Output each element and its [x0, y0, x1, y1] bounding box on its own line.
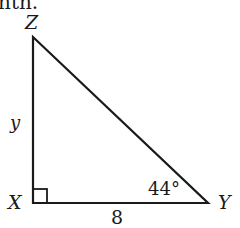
vertex-label-y: Y — [218, 193, 231, 212]
angle-label: 44° — [148, 180, 180, 198]
side-label-y: y — [10, 114, 20, 132]
side-label-bottom: 8 — [111, 208, 123, 227]
right-angle-marker — [33, 189, 47, 203]
vertex-label-x: X — [8, 193, 22, 212]
vertex-label-z: Z — [25, 13, 38, 32]
right-triangle-diagram — [0, 0, 240, 228]
